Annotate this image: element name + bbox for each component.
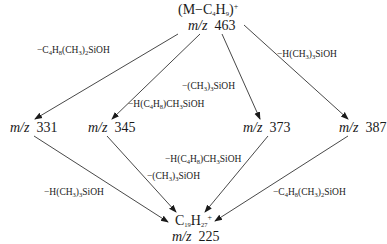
mz-value-331: 331	[36, 120, 57, 135]
loss-label-463-331: −C4H8(CH3)2SiOH	[37, 46, 110, 57]
node-345: m/z 345	[88, 121, 135, 135]
loss-label-463-373: −(CH3)3SiOH	[182, 82, 235, 93]
mz-value-463: 463	[214, 18, 235, 33]
loss-label-345-225: −(CH3)3SiOH	[147, 172, 200, 183]
arrow-463-373	[222, 34, 260, 119]
arrow-373-225	[205, 136, 268, 212]
node-373: m/z 373	[243, 121, 290, 135]
arrow-387-225	[215, 136, 348, 221]
node-parent: (M−C4H9)+	[178, 3, 238, 18]
loss-label-373-225: −H(C4H8)CH3SiOH	[165, 155, 241, 166]
arrow-463-387	[244, 25, 348, 119]
loss-label-331-225: −H(CH3)3SiOH	[44, 188, 104, 199]
loss-label-463-387: −H(CH3)3SiOH	[277, 50, 337, 61]
mz-value-345: 345	[114, 120, 135, 135]
mz-value-373: 373	[269, 120, 290, 135]
mz-value-225: 225	[198, 229, 219, 244]
node-387: m/z 387	[339, 121, 386, 135]
loss-label-463-345: −H(C4H8)CH3SiOH	[128, 100, 204, 111]
arrows-layer	[0, 0, 387, 244]
node-product: C19H27+	[175, 214, 212, 229]
loss-label-387-225: −C4H8(CH3)2SiOH	[273, 188, 346, 199]
node-331: m/z 331	[10, 121, 57, 135]
node-parent-mz: m/z 463	[188, 19, 235, 33]
mz-value-387: 387	[365, 120, 386, 135]
node-product-mz: m/z 225	[172, 230, 219, 244]
